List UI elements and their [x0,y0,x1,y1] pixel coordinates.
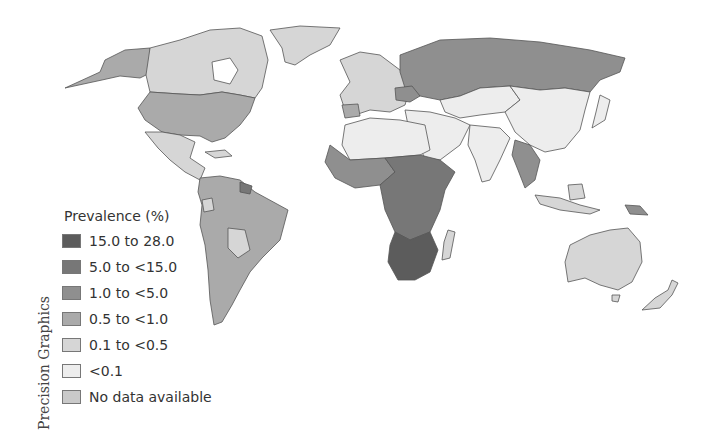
credit-label: Precision Graphics [36,296,52,430]
region-india [468,125,510,182]
region-greenland [270,26,340,65]
legend-title: Prevalence (%) [64,207,212,225]
region-canada [146,28,268,98]
region-caribbean [205,150,232,158]
legend-item: 15.0 to 28.0 [62,228,212,254]
legend-swatch [62,390,81,404]
region-mexico [145,132,205,180]
region-guianas [240,182,252,194]
region-tasmania [612,295,620,302]
legend-swatch [62,364,81,378]
region-indonesia [535,195,600,214]
legend-label: 15.0 to 28.0 [89,233,174,249]
region-north-africa [342,118,430,160]
legend-item: <0.1 [62,358,212,384]
region-southern-africa [388,232,438,280]
legend-swatch [62,286,81,300]
legend-label: 5.0 to <15.0 [89,259,177,275]
region-new-zealand [642,280,678,310]
legend-item: 0.5 to <1.0 [62,306,212,332]
legend-item: 5.0 to <15.0 [62,254,212,280]
legend-swatch [62,312,81,326]
legend-label: No data available [89,389,212,405]
region-alaska [65,48,152,88]
map-legend: Prevalence (%) 15.0 to 28.0 5.0 to <15.0… [62,207,212,410]
legend-swatch [62,234,81,248]
region-australia [565,228,642,290]
legend-swatch [62,338,81,352]
legend-item: 1.0 to <5.0 [62,280,212,306]
region-borneo [568,184,585,200]
legend-item: No data available [62,384,212,410]
legend-label: 0.5 to <1.0 [89,311,168,327]
legend-label: 0.1 to <0.5 [89,337,168,353]
legend-label: <0.1 [89,363,123,379]
region-papua-new-guinea [625,205,648,215]
region-spain [342,104,360,118]
legend-item: 0.1 to <0.5 [62,332,212,358]
legend-label: 1.0 to <5.0 [89,285,168,301]
legend-swatch [62,260,81,274]
region-madagascar [442,230,455,260]
region-japan [592,95,610,128]
